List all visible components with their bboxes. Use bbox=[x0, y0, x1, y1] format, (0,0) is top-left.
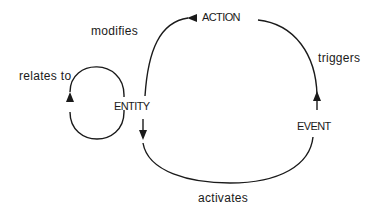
diagram-canvas bbox=[0, 0, 381, 212]
node-event: EVENT bbox=[297, 121, 331, 132]
arrowhead-action-icon bbox=[187, 14, 197, 22]
edge-modifies bbox=[145, 18, 188, 96]
node-action: ACTION bbox=[202, 12, 240, 23]
label-triggers: triggers bbox=[318, 52, 360, 64]
edge-activates bbox=[143, 137, 313, 183]
edge-triggers bbox=[258, 20, 317, 95]
label-modifies: modifies bbox=[91, 25, 138, 37]
label-activates: activates bbox=[198, 192, 248, 204]
arrowhead-loop-icon bbox=[66, 92, 74, 102]
label-relates-to: relates to bbox=[19, 70, 71, 82]
arrowhead-event-icon bbox=[313, 91, 321, 101]
arrowhead-activates-icon bbox=[139, 130, 147, 140]
node-entity: ENTITY bbox=[114, 101, 150, 112]
